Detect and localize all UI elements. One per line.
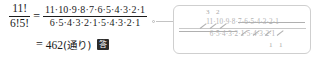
result-value: 462 [46,39,63,51]
equation-row: 11! 6!5! = 11·10·9·8·7·6·5·4·3·2·1 6·5·4… [9,3,147,29]
cancellation-callout-body: 3 2 11·10·9·8·7·6·5·4·3·2·1 6·5·4·3·2·1·… [179,8,306,51]
result-row: = 462 (通り) 答 [33,37,109,52]
bottom-digit-2: 1 [279,42,283,49]
top-digit-1: 3 [206,9,210,16]
main-solution: 11! 6!5! = 11·10·9·8·7·6·5·4·3·2·1 6·5·4… [0,0,158,60]
cancellation-top-digits: 3 2 [179,9,306,18]
result-equals-sign: = [36,37,43,52]
cancel-stroke-numerator-tail [238,22,305,23]
connector-line [156,21,174,22]
connector-dot [152,20,155,23]
expanded-fraction-numerator: 11·10·9·8·7·6·5·4·3·2·1 [43,5,147,15]
factorial-fraction-numerator: 11! [11,3,28,15]
cancellation-callout: 3 2 11·10·9·8·7·6·5·4·3·2·1 6·5·4·3·2·1·… [173,5,311,54]
cancellation-bottom-digits: 1 1 [179,42,306,51]
cancel-stroke-denominator-head [179,31,237,32]
cancelled-fraction: 11·10·9·8·7·6·5·4·3·2·1 6·5·4·3·2·1·5·4·… [179,19,306,38]
bottom-digit-1: 1 [269,42,273,49]
top-digit-2: 2 [216,9,220,16]
equals-sign: = [33,9,40,24]
result-unit: (通り) [63,37,91,52]
expanded-fraction: 11·10·9·8·7·6·5·4·3·2·1 6·5·4·3·2·1·5·4·… [43,5,147,28]
worksheet-canvas: 11! 6!5! = 11·10·9·8·7·6·5·4·3·2·1 6·5·4… [0,0,316,60]
fraction-bar [179,28,306,29]
factorial-fraction-denominator: 6!5! [9,18,30,30]
answer-badge: 答 [97,39,109,50]
factorial-fraction: 11! 6!5! [9,3,30,29]
expanded-fraction-denominator: 6·5·4·3·2·1·5·4·3·2·1 [48,18,142,28]
callout-connector [152,19,174,24]
